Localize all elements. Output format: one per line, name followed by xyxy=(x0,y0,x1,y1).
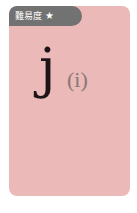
flash-card[interactable]: 難易度★ j (i) xyxy=(9,6,130,196)
difficulty-badge: 難易度★ xyxy=(9,6,82,26)
star-icon: ★ xyxy=(45,10,54,21)
letter-row: j (i) xyxy=(9,39,130,109)
letter-glyph: j xyxy=(39,39,56,99)
reading-text: (i) xyxy=(67,67,88,93)
difficulty-label: 難易度 xyxy=(15,11,42,21)
